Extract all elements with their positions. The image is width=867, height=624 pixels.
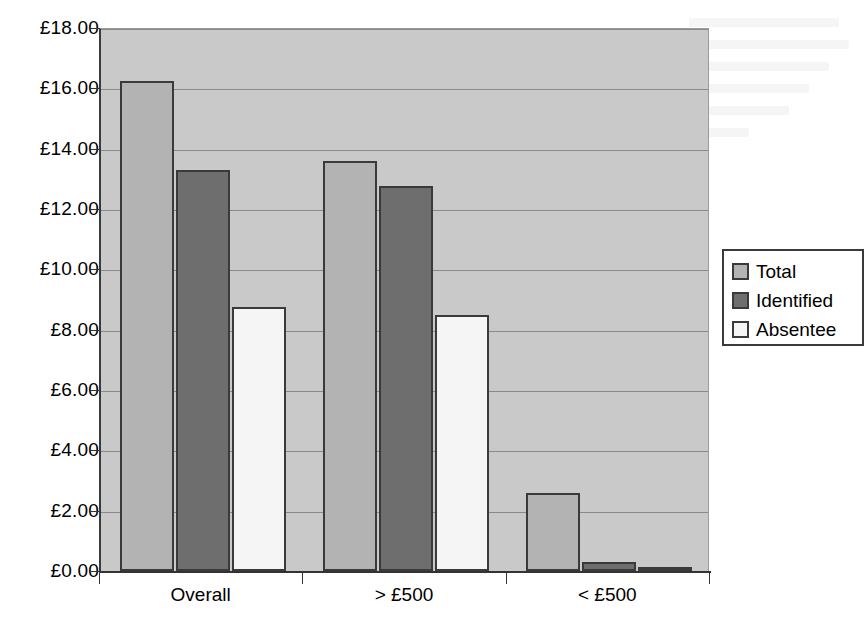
y-axis-tick-label: £10.00	[15, 258, 99, 280]
y-axis-tick	[90, 571, 99, 572]
y-axis-tick	[90, 511, 99, 512]
y-axis-tick-label: £14.00	[15, 138, 99, 160]
bar-total-1	[120, 81, 174, 571]
bar-identified-2	[379, 186, 433, 571]
bar-chart: £0.00£2.00£4.00£6.00£8.00£10.00£12.00£14…	[0, 0, 867, 624]
legend-item-identified: Identified	[732, 286, 862, 315]
x-axis-tick	[506, 571, 507, 584]
bar-identified-1	[176, 170, 230, 571]
y-axis-tick-label: £16.00	[15, 77, 99, 99]
x-axis-category-label: > £500	[375, 584, 434, 606]
y-axis-tick-label: £2.00	[15, 500, 99, 522]
y-axis-tick	[90, 149, 99, 150]
y-axis-tick	[90, 269, 99, 270]
y-axis-tick	[90, 390, 99, 391]
y-axis: £0.00£2.00£4.00£6.00£8.00£10.00£12.00£14…	[0, 0, 99, 624]
bar-absentee-2	[435, 315, 489, 571]
legend-swatch-icon	[732, 292, 749, 309]
y-axis-tick	[90, 88, 99, 89]
gridline	[101, 150, 708, 151]
x-axis-tick	[99, 571, 100, 584]
x-axis-tick	[709, 571, 710, 584]
bar-total-2	[323, 161, 377, 571]
y-axis-tick	[90, 209, 99, 210]
x-axis-category-label: < £500	[578, 584, 637, 606]
legend-item-absentee: Absentee	[732, 315, 862, 344]
legend-swatch-icon	[732, 263, 749, 280]
y-axis-tick-label: £8.00	[15, 319, 99, 341]
bar-total-3	[526, 493, 580, 571]
legend-item-total: Total	[732, 257, 862, 286]
plot-area	[99, 28, 709, 571]
y-axis-tick-label: £4.00	[15, 439, 99, 461]
legend-label: Identified	[756, 290, 833, 312]
legend-label: Total	[756, 261, 796, 283]
y-axis-tick-label: £18.00	[15, 17, 99, 39]
x-axis-tick	[302, 571, 303, 584]
legend-label: Absentee	[756, 319, 836, 341]
chart-legend: TotalIdentifiedAbsentee	[722, 249, 864, 346]
gridline	[101, 89, 708, 90]
y-axis-tick-label: £6.00	[15, 379, 99, 401]
scan-bleedthrough-artifact	[689, 18, 859, 218]
y-axis-tick-label: £12.00	[15, 198, 99, 220]
bar-identified-3	[582, 562, 636, 571]
x-axis-line	[99, 571, 711, 573]
y-axis-tick	[90, 330, 99, 331]
bar-absentee-1	[232, 307, 286, 571]
x-axis-category-label: Overall	[171, 584, 231, 606]
gridline	[101, 29, 708, 30]
y-axis-tick	[90, 28, 99, 29]
legend-swatch-icon	[732, 321, 749, 338]
y-axis-tick	[90, 450, 99, 451]
y-axis-tick-label: £0.00	[15, 560, 99, 582]
